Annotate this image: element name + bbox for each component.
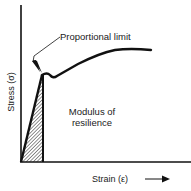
y-axis-label: Stress (σ) (6, 72, 16, 112)
stress-strain-curve (42, 49, 151, 77)
modulus-label-line1: Modulus of (69, 106, 116, 117)
proportional-limit-pointer (32, 37, 60, 73)
proportional-limit-label: Proportional limit (60, 31, 131, 42)
x-axis-arrow-icon (145, 176, 170, 183)
axes (20, 5, 191, 162)
x-axis-label: Strain (ε) (92, 174, 128, 184)
stress-strain-diagram: Proportional limit Modulus of resilience… (0, 0, 191, 191)
modulus-label-line2: resilience (72, 117, 112, 128)
